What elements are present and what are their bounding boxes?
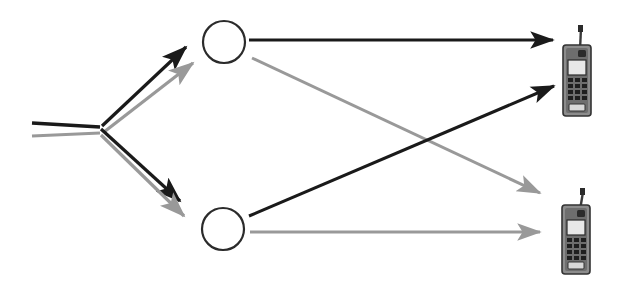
source-line-secondary [32,133,100,136]
source-line-primary [32,123,100,127]
relay-top-to-phone-bottom-secondary-edge [252,58,540,193]
source-to-relay-top-secondary-edge [104,63,193,132]
source-feed-group [32,123,100,136]
relay-node-bottom [202,208,244,250]
phone-top-antenna-tip [578,25,583,32]
relay-nodes-group [202,21,245,250]
phone-bottom-screen [567,220,585,235]
wireless-relay-diagram: Wireless two-path relay network [0,0,617,281]
diagram-canvas [0,0,617,281]
mobile-phone-top [563,25,591,116]
mobile-phone-bottom [562,188,590,274]
source-to-relay-top-primary-edge [102,47,186,126]
source-to-relay-bottom-primary-edge [101,129,180,201]
phone-bottom-antenna-tip [580,188,585,195]
source-to-relay-bottom-secondary-edge [101,135,184,216]
relay-to-receiver-edges [249,40,554,232]
phone-bottom-mouthpiece [568,262,584,269]
source-to-relay-edges [101,47,193,216]
phone-top-earpiece [578,50,586,57]
phone-top-screen [568,60,586,75]
phone-top-mouthpiece [569,104,585,111]
phone-bottom-earpiece [577,210,585,217]
relay-node-top [203,21,245,63]
relay-bottom-to-phone-top-primary-edge [249,86,554,216]
